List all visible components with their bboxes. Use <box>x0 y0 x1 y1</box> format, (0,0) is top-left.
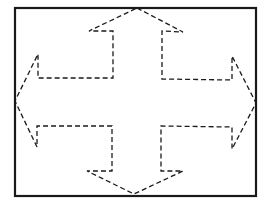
frame-rectangle <box>15 8 256 196</box>
four-way-arrow-diagram <box>0 0 271 204</box>
four-way-arrow-outline <box>15 8 256 194</box>
